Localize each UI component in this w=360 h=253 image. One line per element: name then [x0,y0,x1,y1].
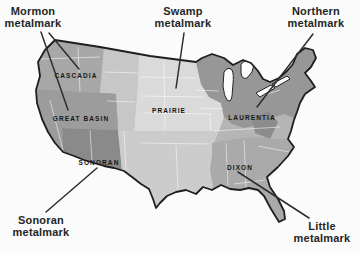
callout-swamp-line2: metalmark [147,18,219,30]
region-label-dixon: DIXON [227,164,253,171]
region-dixon [210,137,294,222]
callout-mormon-line2: metalmark [0,18,69,30]
callout-mormon-metalmark: Mormon metalmark [0,6,69,29]
region-label-laurentia: LAURENTIA [228,114,275,121]
region-label-prairie: PRAIRIE [152,107,186,114]
metalmark-range-map-figure: CASCADIA GREAT BASIN SONORAN PRAIRIE LAU… [0,0,360,253]
callout-little-metalmark: Little metalmark [286,221,358,244]
callout-sonoran-line1: Sonoran [5,215,77,227]
callout-swamp-metalmark: Swamp metalmark [147,6,219,29]
pointer-line-sonoran-to-sonoran-region [46,168,97,212]
callout-swamp-line1: Swamp [147,6,219,18]
lake-michigan-icon [223,68,233,101]
callout-mormon-line1: Mormon [0,6,69,18]
region-cascadia [34,40,104,93]
callout-little-line1: Little [286,221,358,233]
callout-sonoran-metalmark: Sonoran metalmark [5,215,77,238]
region-label-sonoran: SONORAN [79,159,120,166]
region-label-cascadia: CASCADIA [54,72,97,79]
callout-little-line2: metalmark [286,233,358,245]
callout-northern-line2: metalmark [280,18,352,30]
region-label-great-basin: GREAT BASIN [53,115,109,122]
callout-sonoran-line2: metalmark [5,227,77,239]
callout-northern-metalmark: Northern metalmark [280,6,352,29]
callout-northern-line1: Northern [280,6,352,18]
